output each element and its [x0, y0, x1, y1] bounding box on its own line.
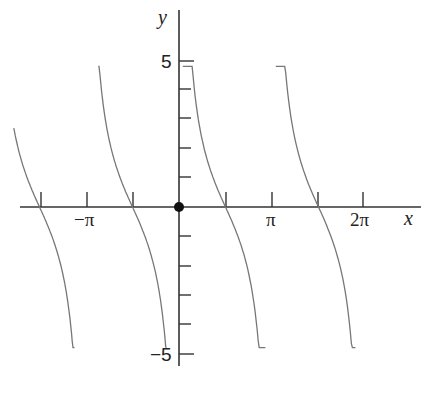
x-tick-label-2pi: 2π [350, 209, 370, 230]
y-tick-label-5: 5 [161, 51, 172, 72]
y-axis-label: y [156, 6, 167, 29]
x-axis-label: x [403, 207, 413, 229]
origin-point [174, 202, 184, 212]
x-tick-label-pi: π [266, 209, 276, 230]
y-tick-label-neg5: −5 [150, 344, 172, 365]
x-tick-label-neg-pi: −π [74, 209, 95, 230]
chart-frame: y x 5 −5 −π π 2π [0, 0, 430, 399]
cotangent-plot: y x 5 −5 −π π 2π [0, 0, 430, 399]
curve-branch [14, 128, 75, 348]
